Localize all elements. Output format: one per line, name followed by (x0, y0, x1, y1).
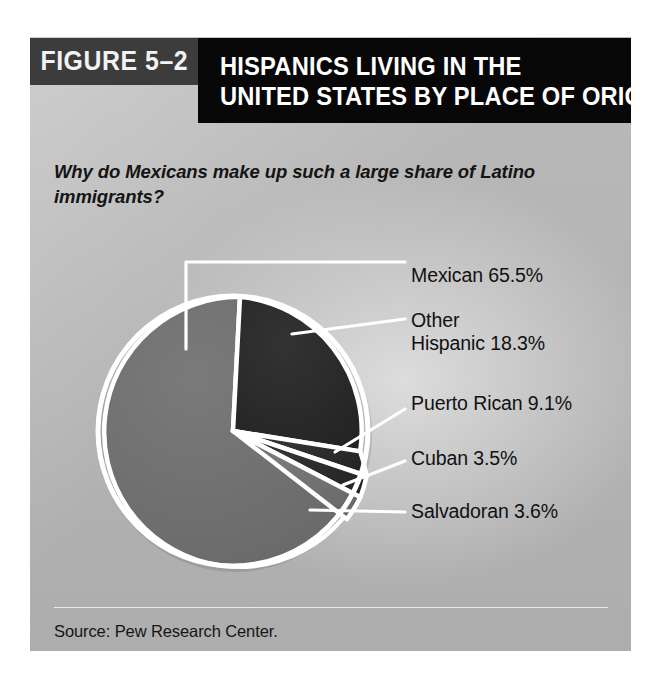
pie-label-other-hispanic: Other Hispanic 18.3% (411, 309, 545, 355)
pie-label-mexican: Mexican 65.5% (411, 264, 543, 287)
figure-number-label: FIGURE 5–2 (41, 46, 189, 77)
source-note: Source: Pew Research Center. (54, 622, 278, 641)
figure-title-line-2: UNITED STATES BY PLACE OF ORIGIN (220, 81, 602, 111)
source-divider (54, 607, 608, 608)
figure-number-banner: FIGURE 5–2 (30, 38, 199, 85)
leader-line-salvadoran (310, 510, 405, 512)
pie-label-puerto-rican: Puerto Rican 9.1% (411, 392, 572, 415)
figure-title-line-1: HISPANICS LIVING IN THE (220, 51, 602, 81)
figure-title-block: HISPANICS LIVING IN THE UNITED STATES BY… (198, 38, 631, 123)
pie-label-salvadoran: Salvadoran 3.6% (411, 500, 558, 523)
figure-panel: FIGURE 5–2 HISPANICS LIVING IN THE UNITE… (30, 37, 631, 651)
pie-slice-other-hispanic (233, 297, 362, 452)
pie-label-cuban: Cuban 3.5% (411, 447, 517, 470)
figure-subtitle: Why do Mexicans make up such a large sha… (54, 159, 574, 209)
